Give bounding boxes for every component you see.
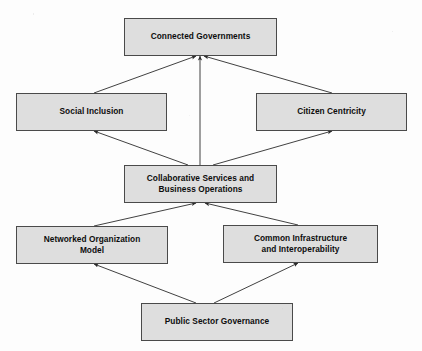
edge-collaborative-to-social (94, 131, 188, 165)
edge-citizen-to-connected (204, 56, 332, 93)
node-label-common-infrastructure: Common Infrastructure and Interoperabili… (251, 233, 350, 256)
node-citizen-centricity[interactable]: Citizen Centricity (256, 93, 407, 131)
edge-governance-to-networked (94, 264, 196, 303)
edge-infrastructure-to-collab (205, 203, 298, 225)
edge-social-to-connected (94, 56, 196, 93)
node-public-sector-governance[interactable]: Public Sector Governance (141, 303, 293, 341)
node-common-infrastructure[interactable]: Common Infrastructure and Interoperabili… (223, 225, 378, 263)
node-label-connected-governments: Connected Governments (148, 31, 254, 43)
node-label-collaborative-services: Collaborative Services and Business Oper… (144, 173, 257, 196)
edge-collaborative-to-citizen (213, 131, 332, 165)
node-networked-organization-model[interactable]: Networked Organization Model (16, 226, 168, 264)
node-connected-governments[interactable]: Connected Governments (124, 18, 277, 56)
node-label-networked-organization-model: Networked Organization Model (41, 234, 144, 257)
node-social-inclusion[interactable]: Social Inclusion (16, 93, 167, 131)
node-label-social-inclusion: Social Inclusion (57, 106, 127, 118)
node-label-citizen-centricity: Citizen Centricity (294, 106, 369, 118)
node-label-public-sector-governance: Public Sector Governance (162, 316, 273, 328)
node-collaborative-services[interactable]: Collaborative Services and Business Oper… (124, 165, 277, 203)
diagram-canvas: Connected Governments Social Inclusion C… (0, 0, 422, 351)
edge-governance-to-infra (214, 263, 298, 303)
edge-networked-to-collaborative (94, 203, 196, 226)
